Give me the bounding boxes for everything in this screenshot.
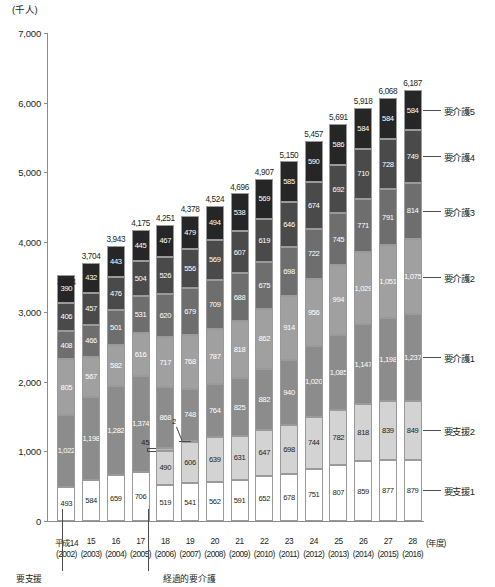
segment-要介護3[interactable]: 688 (231, 273, 249, 321)
segment-要介護4[interactable]: 556 (181, 249, 199, 288)
segment-要介護4[interactable]: 749 (404, 130, 422, 182)
bar-2003[interactable]: 5841,198567466457432 (82, 33, 100, 521)
segment-要介護2[interactable]: 994 (329, 265, 347, 334)
segment-要支援2[interactable]: 631 (231, 436, 249, 480)
bar-2006[interactable]: 519490868717620526467 (156, 33, 174, 521)
segment-要支援2[interactable]: 647 (255, 430, 273, 475)
segment-要介護5[interactable]: 479 (181, 216, 199, 249)
segment-要介護5[interactable]: 445 (132, 230, 150, 261)
segment-要支援1[interactable]: 591 (231, 480, 249, 521)
legend-item-yoshien1[interactable]: 要支援1 (444, 484, 475, 498)
segment-要介護5[interactable]: 494 (206, 206, 224, 240)
legend-item-yokaigo5[interactable]: 要介護5 (444, 104, 475, 118)
segment-要介護5[interactable]: 590 (305, 141, 323, 182)
segment-要支援2[interactable]: 606 (181, 441, 199, 483)
segment-要支援1[interactable]: 584 (82, 480, 100, 521)
segment-要介護1[interactable]: 764 (206, 384, 224, 437)
bar-2011[interactable]: 678698940914698646585 (280, 33, 298, 521)
segment-要介護4[interactable]: 607 (231, 231, 249, 273)
segment-要介護3[interactable]: 408 (57, 331, 75, 359)
segment-要介護3[interactable]: 501 (107, 310, 125, 345)
bar-2007[interactable]: 541606748768679556479 (181, 33, 199, 521)
segment-要介護3[interactable]: 620 (156, 294, 174, 337)
segment-要介護5[interactable]: 584 (354, 108, 372, 149)
segment-要支援2[interactable]: 744 (305, 417, 323, 469)
segment-要介護1[interactable]: 1,198 (82, 397, 100, 481)
segment-要介護5[interactable]: 432 (82, 263, 100, 293)
segment-要介護2[interactable]: 1,029 (354, 252, 372, 324)
segment-要介護5[interactable]: 584 (404, 90, 422, 131)
segment-要介護1[interactable]: 1,374 (132, 376, 150, 472)
segment-要介護1[interactable]: 882 (255, 369, 273, 430)
segment-要介護4[interactable]: 674 (305, 182, 323, 229)
segment-要介護2[interactable]: 956 (305, 279, 323, 346)
segment-要介護3[interactable]: 709 (206, 280, 224, 329)
segment-要介護2[interactable]: 914 (280, 296, 298, 360)
segment-要介護5[interactable]: 586 (329, 124, 347, 165)
segment-要介護2[interactable]: 818 (231, 321, 249, 378)
segment-要介護4[interactable]: 619 (255, 219, 273, 262)
segment-要介護1[interactable]: 1,282 (107, 386, 125, 475)
segment-経過的要介護[interactable] (156, 448, 174, 451)
legend-item-yokaigo2[interactable]: 要介護2 (444, 271, 475, 285)
segment-要介護4[interactable]: 504 (132, 261, 150, 296)
segment-要支援2[interactable]: 818 (354, 404, 372, 461)
segment-要支援2[interactable]: 782 (329, 410, 347, 465)
segment-要介護2[interactable]: 768 (181, 335, 199, 389)
segment-要支援2[interactable]: 639 (206, 437, 224, 482)
bar-2004[interactable]: 6591,282582501476443 (107, 33, 125, 521)
segment-要支援1[interactable]: 562 (206, 482, 224, 521)
segment-要介護2[interactable]: 582 (107, 345, 125, 386)
segment-要支援1[interactable]: 659 (107, 475, 125, 521)
legend-item-yoshien2[interactable]: 要支援2 (444, 424, 475, 438)
segment-要介護3[interactable]: 722 (305, 229, 323, 279)
segment-要支援2[interactable]: 849 (404, 401, 422, 460)
segment-要支援2[interactable]: 839 (379, 401, 397, 459)
segment-要支援2[interactable]: 490 (156, 451, 174, 485)
segment-要介護4[interactable]: 406 (57, 303, 75, 331)
segment-要支援1[interactable]: 877 (379, 460, 397, 521)
legend-item-yokaigo1[interactable]: 要介護1 (444, 351, 475, 365)
bar-2015[interactable]: 8778391,1981,051791728584 (379, 33, 397, 521)
segment-要介護2[interactable]: 1,075 (404, 239, 422, 314)
segment-要介護1[interactable]: 1,020 (305, 346, 323, 417)
bar-2016[interactable]: 8798491,2371,075814749584 (404, 33, 422, 521)
segment-要介護5[interactable]: 585 (280, 161, 298, 202)
segment-要支援1[interactable]: 706 (132, 472, 150, 521)
segment-要介護1[interactable]: 1,237 (404, 314, 422, 400)
segment-要介護3[interactable]: 791 (379, 189, 397, 244)
segment-要介護5[interactable]: 443 (107, 246, 125, 277)
segment-要支援1[interactable]: 879 (404, 460, 422, 521)
segment-要介護4[interactable]: 692 (329, 165, 347, 213)
segment-要支援2[interactable]: 698 (280, 425, 298, 474)
segment-要介護1[interactable]: 1,022 (57, 415, 75, 486)
segment-要支援1[interactable]: 541 (181, 483, 199, 521)
segment-要介護1[interactable]: 1,198 (379, 318, 397, 402)
segment-要介護2[interactable]: 567 (82, 357, 100, 397)
segment-要介護4[interactable]: 569 (206, 240, 224, 280)
segment-要介護3[interactable]: 814 (404, 183, 422, 240)
segment-要支援1[interactable]: 751 (305, 469, 323, 521)
segment-要支援1[interactable]: 807 (329, 465, 347, 521)
segment-要介護5[interactable]: 584 (379, 98, 397, 139)
segment-要介護2[interactable]: 717 (156, 337, 174, 387)
segment-要介護3[interactable]: 771 (354, 199, 372, 253)
segment-要介護4[interactable]: 710 (354, 149, 372, 198)
segment-要介護5[interactable]: 467 (156, 225, 174, 258)
segment-要介護2[interactable]: 787 (206, 329, 224, 384)
segment-要支援1[interactable]: 652 (255, 476, 273, 521)
segment-要支援1[interactable]: 678 (280, 474, 298, 521)
segment-要介護5[interactable]: 538 (231, 193, 249, 231)
bar-2009[interactable]: 591631825818688607538 (231, 33, 249, 521)
segment-要介護3[interactable]: 675 (255, 262, 273, 309)
segment-要介護2[interactable]: 805 (57, 359, 75, 415)
segment-要介護4[interactable]: 728 (379, 139, 397, 190)
segment-要介護2[interactable]: 616 (132, 333, 150, 376)
segment-要介護2[interactable]: 1,051 (379, 245, 397, 318)
segment-要支援1[interactable]: 859 (354, 461, 372, 521)
segment-要介護3[interactable]: 531 (132, 296, 150, 333)
segment-要介護4[interactable]: 457 (82, 293, 100, 325)
legend-item-yokaigo3[interactable]: 要介護3 (444, 205, 475, 219)
segment-要介護3[interactable]: 698 (280, 247, 298, 296)
bar-2012[interactable]: 7517441,020956722674590 (305, 33, 323, 521)
